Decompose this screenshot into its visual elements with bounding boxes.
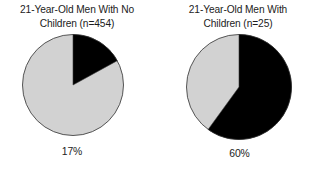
percent-label-men-with-children: 60%	[229, 148, 250, 160]
pie-wrap-men-with-children	[185, 33, 293, 141]
panel-title-men-with-children: 21-Year-Old Men With Children (n=25)	[189, 3, 287, 30]
panel-men-no-children: 21-Year-Old Men With No Children (n=454)…	[0, 0, 156, 195]
percent-label-men-no-children: 17%	[62, 146, 83, 158]
pie-wrap-men-no-children	[21, 33, 125, 137]
pie-chart-men-with-children	[185, 33, 293, 141]
pie-chart-men-no-children	[21, 33, 125, 137]
panel-title-men-no-children: 21-Year-Old Men With No Children (n=454)	[20, 3, 134, 30]
pie-chart-figure: 21-Year-Old Men With No Children (n=454)…	[0, 0, 313, 195]
panel-men-with-children: 21-Year-Old Men With Children (n=25) 60%	[157, 0, 313, 195]
